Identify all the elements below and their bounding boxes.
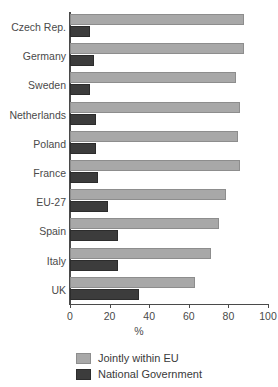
category-label: Poland bbox=[0, 139, 66, 150]
bar bbox=[70, 189, 226, 200]
bar bbox=[70, 260, 118, 271]
category-label: EU-27 bbox=[0, 197, 66, 208]
category-label: Netherlands bbox=[0, 110, 66, 121]
legend-label-jointly-within-eu: Jointly within EU bbox=[98, 352, 179, 364]
category-label: France bbox=[0, 168, 66, 179]
x-axis-tick-label: 100 bbox=[259, 310, 277, 322]
legend-swatch-icon-national-government bbox=[76, 369, 91, 380]
bar-group bbox=[70, 216, 268, 245]
x-axis-tick-label: 0 bbox=[67, 310, 73, 322]
bar-group bbox=[70, 246, 268, 275]
x-axis-tick-label: 40 bbox=[143, 310, 155, 322]
plot-area bbox=[70, 12, 268, 304]
category-label: Germany bbox=[0, 51, 66, 62]
bar bbox=[70, 143, 96, 154]
bar bbox=[70, 43, 244, 54]
bar bbox=[70, 131, 238, 142]
chart-legend: Jointly within EU National Government bbox=[76, 350, 202, 382]
category-label: Sweden bbox=[0, 80, 66, 91]
bar-group bbox=[70, 100, 268, 129]
category-label: UK bbox=[0, 285, 66, 296]
bar bbox=[70, 26, 90, 37]
x-axis-tick-label: 80 bbox=[223, 310, 235, 322]
bar bbox=[70, 14, 244, 25]
legend-item-national-government: National Government bbox=[76, 366, 202, 382]
x-axis-tick-mark bbox=[70, 304, 71, 308]
bar bbox=[70, 248, 211, 259]
x-axis-line bbox=[69, 304, 268, 305]
bar-group bbox=[70, 41, 268, 70]
bar bbox=[70, 230, 118, 241]
bar-group bbox=[70, 158, 268, 187]
x-axis-title: % bbox=[0, 325, 278, 337]
x-axis-tick-mark bbox=[149, 304, 150, 308]
x-axis-tick-mark bbox=[268, 304, 269, 308]
legend-label-national-government: National Government bbox=[98, 368, 202, 380]
bar bbox=[70, 102, 240, 113]
category-label: Spain bbox=[0, 226, 66, 237]
bar-group bbox=[70, 12, 268, 41]
bar bbox=[70, 172, 98, 183]
x-axis-tick-label: 20 bbox=[104, 310, 116, 322]
bar-group bbox=[70, 275, 268, 304]
bar bbox=[70, 277, 195, 288]
bar bbox=[70, 289, 139, 300]
bar bbox=[70, 218, 219, 229]
bar bbox=[70, 201, 108, 212]
category-label: Czech Rep. bbox=[0, 22, 66, 33]
category-label: Italy bbox=[0, 256, 66, 267]
legend-item-jointly-within-eu: Jointly within EU bbox=[76, 350, 202, 366]
x-axis-tick-mark bbox=[228, 304, 229, 308]
x-axis-tick-label: 60 bbox=[183, 310, 195, 322]
x-axis-tick-mark bbox=[110, 304, 111, 308]
x-axis-tick-mark bbox=[189, 304, 190, 308]
bar-group bbox=[70, 70, 268, 99]
bar bbox=[70, 55, 94, 66]
bar bbox=[70, 160, 240, 171]
legend-swatch-icon-jointly-within-eu bbox=[76, 353, 91, 364]
bar-chart: Czech Rep.GermanySwedenNetherlandsPoland… bbox=[0, 0, 278, 387]
bar-group bbox=[70, 187, 268, 216]
bar-group bbox=[70, 129, 268, 158]
bar bbox=[70, 84, 90, 95]
bar bbox=[70, 114, 96, 125]
bar bbox=[70, 72, 236, 83]
